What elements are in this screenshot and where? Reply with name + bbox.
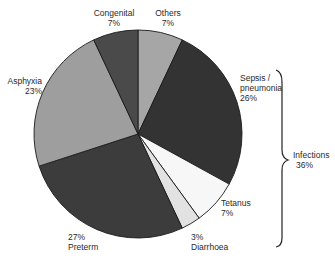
- label-sepsis-pct: 26%: [240, 93, 282, 103]
- label-asphyxia-pct: 23%: [2, 86, 42, 96]
- label-asphyxia: Asphyxia 23%: [2, 76, 42, 96]
- pie-chart: [0, 0, 335, 260]
- label-preterm: 27% Preterm: [68, 232, 98, 252]
- label-diarrhoea: 3% Diarrhoea: [191, 232, 228, 252]
- label-sepsis-name-1: Sepsis /: [240, 73, 282, 83]
- label-others-name: Others: [148, 8, 188, 18]
- label-sepsis: Sepsis / pneumonia 26%: [240, 73, 282, 103]
- label-preterm-name: Preterm: [68, 242, 98, 252]
- label-congenital-pct: 7%: [84, 18, 144, 28]
- label-tetanus-pct: 7%: [221, 208, 251, 218]
- label-congenital: Congenital 7%: [84, 8, 144, 28]
- pie-slices: [34, 30, 242, 238]
- label-infections-pct: 36%: [293, 160, 329, 170]
- label-infections: Infections 36%: [293, 150, 329, 170]
- label-diarrhoea-name: Diarrhoea: [191, 242, 228, 252]
- label-sepsis-name-2: pneumonia: [240, 83, 282, 93]
- label-diarrhoea-pct: 3%: [191, 232, 228, 242]
- label-tetanus: Tetanus 7%: [221, 198, 251, 218]
- label-infections-name: Infections: [293, 150, 329, 160]
- label-preterm-pct: 27%: [68, 232, 98, 242]
- label-tetanus-name: Tetanus: [221, 198, 251, 208]
- label-others-pct: 7%: [148, 18, 188, 28]
- label-others: Others 7%: [148, 8, 188, 28]
- label-asphyxia-name: Asphyxia: [2, 76, 42, 86]
- label-congenital-name: Congenital: [84, 8, 144, 18]
